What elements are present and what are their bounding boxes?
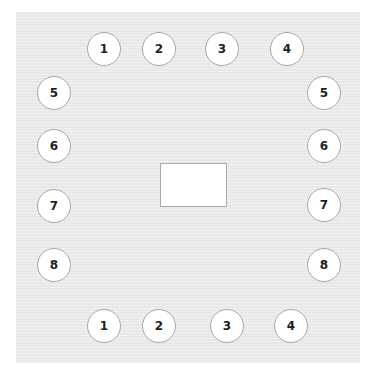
seat-right-6[interactable]: 6 [307, 129, 341, 163]
seat-left-6[interactable]: 6 [37, 129, 71, 163]
seat-right-7[interactable]: 7 [307, 188, 341, 222]
seat-right-5[interactable]: 5 [307, 76, 341, 110]
seat-top-1[interactable]: 1 [87, 32, 121, 66]
seat-left-8[interactable]: 8 [37, 248, 71, 282]
seat-bottom-3[interactable]: 3 [210, 309, 244, 343]
seat-bottom-2[interactable]: 2 [142, 309, 176, 343]
center-table[interactable] [160, 163, 227, 207]
seat-bottom-4[interactable]: 4 [274, 309, 308, 343]
seat-top-2[interactable]: 2 [142, 32, 176, 66]
seat-top-4[interactable]: 4 [270, 32, 304, 66]
seat-top-3[interactable]: 3 [205, 32, 239, 66]
seat-left-5[interactable]: 5 [37, 76, 71, 110]
seat-bottom-1[interactable]: 1 [87, 309, 121, 343]
seat-right-8[interactable]: 8 [307, 248, 341, 282]
seat-left-7[interactable]: 7 [37, 189, 71, 223]
